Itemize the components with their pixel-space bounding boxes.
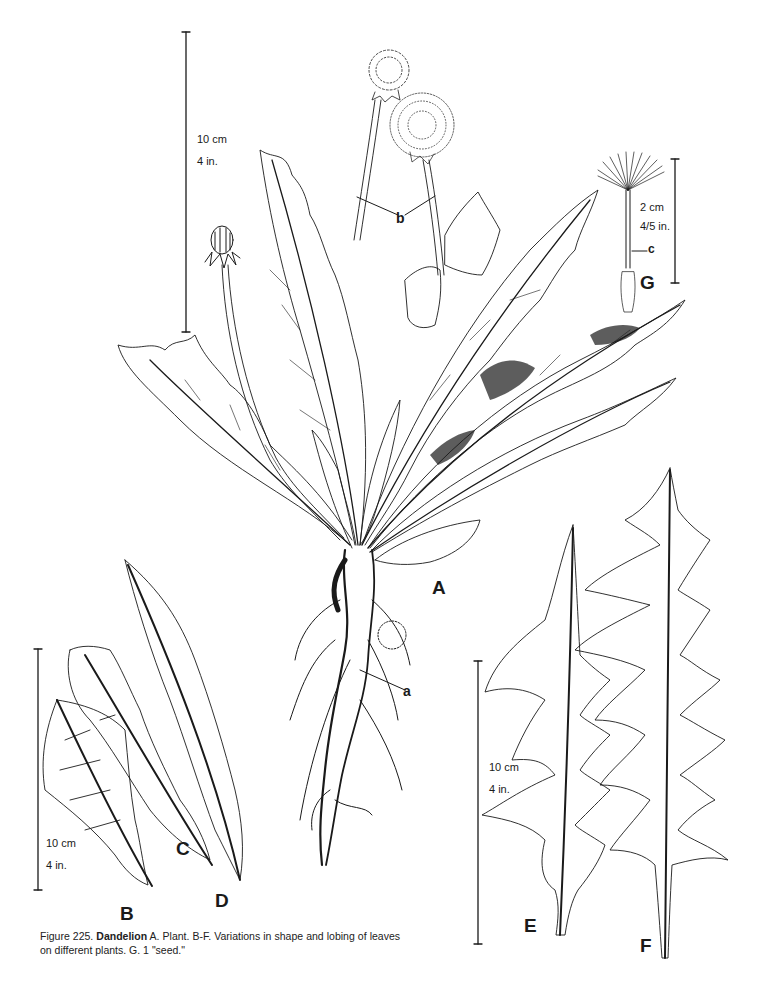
scale-label-leaves-bcd: 10 cm 4 in. [46,832,76,876]
panel-label-a: A [432,577,446,599]
leaf-f [575,468,728,958]
leaf-damage-stipple [430,325,640,465]
scale-metric: 10 cm [46,832,76,854]
botanical-illustration [0,0,768,996]
scale-bar-plant [182,32,190,332]
scale-label-plant: 10 cm 4 in. [197,128,227,172]
scale-imperial: 4/5 in. [640,217,670,236]
panel-label-b: B [120,903,134,925]
scale-label-seed: 2 cm 4/5 in. [640,198,670,236]
leaf-c [68,646,212,865]
scale-bar-seed [671,159,679,283]
scale-metric: 10 cm [197,128,227,150]
part-label-c-beak: c [648,242,655,256]
panel-label-g: G [640,272,655,294]
dandelion-figure: A B C D E F G a b c 10 cm 4 in. 10 cm 4 … [0,0,768,996]
caption-text: A. Plant. B-F. Variations in shape and l… [40,930,400,956]
leaf-d [125,560,242,880]
part-label-b-scapes: b [396,210,405,226]
figure-caption: Figure 225. Dandelion A. Plant. B-F. Var… [40,930,400,957]
scale-imperial: 4 in. [197,150,227,172]
caption-species-name: Dandelion [96,930,147,942]
panel-label-f: F [640,935,652,957]
flower-bud [205,226,240,268]
leader-lines [357,196,647,690]
leaf-e [482,525,610,935]
part-label-a-root: a [403,683,411,699]
seed-head-puffball [390,93,454,164]
scale-metric: 10 cm [489,756,519,778]
panel-label-e: E [524,915,537,937]
scale-label-leaves-ef: 10 cm 4 in. [489,756,519,800]
taproot [290,550,410,865]
scale-imperial: 4 in. [46,854,76,876]
flower-stalks [222,100,444,540]
flower-head-open [369,50,409,102]
panel-label-d: D [215,890,229,912]
scale-imperial: 4 in. [489,778,519,800]
scale-bar-leaves-ef [474,661,482,944]
scale-bar-leaves-bcd [34,649,42,890]
panel-label-c: C [176,838,190,860]
scale-metric: 2 cm [640,198,670,217]
caption-number: Figure 225. [40,930,93,942]
